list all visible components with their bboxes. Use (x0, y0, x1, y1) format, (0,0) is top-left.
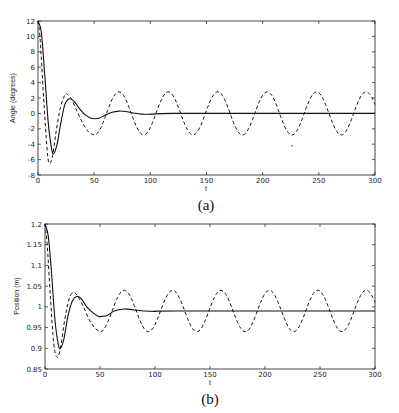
caption-b: (b) (201, 391, 219, 408)
xlabel-b: t (209, 379, 211, 386)
x-tick-label: 300 (368, 177, 381, 185)
y-tick-label: 0.9 (31, 345, 42, 353)
ylabel-b: Position (m) (13, 277, 21, 314)
x-tick-label: 300 (368, 371, 381, 379)
y-tick-label: 8 (31, 48, 35, 56)
y-tick-label: 1.15 (26, 241, 42, 249)
y-tick-label: 4 (31, 79, 36, 87)
x-tick-label: 250 (313, 371, 326, 379)
plot-frame (38, 21, 375, 175)
plot-area-b: 0501001502002503000.850.90.9511.051.11.1… (26, 221, 381, 380)
x-tick-label: 200 (258, 371, 271, 379)
y-tick-label: 1.1 (31, 262, 42, 270)
ylabel-a: Angle (degrees) (9, 73, 17, 123)
x-tick-label: 200 (256, 177, 269, 185)
caption-a: (a) (198, 197, 215, 214)
y-tick-label: -6 (28, 156, 36, 164)
y-tick-label: 10 (26, 33, 35, 41)
y-tick-label: 0.85 (26, 366, 42, 374)
x-tick-label: 250 (312, 177, 325, 185)
x-tick-label: 100 (148, 371, 161, 379)
y-tick-label: -8 (28, 172, 35, 180)
figure: 050100150200250300-8-6-4-2024681012 Angl… (0, 0, 399, 413)
y-tick-label: 2 (31, 95, 35, 103)
chart-a: 050100150200250300-8-6-4-2024681012 Angl… (9, 18, 382, 215)
y-tick-label: 1.05 (26, 283, 42, 291)
x-tick-label: 150 (200, 177, 213, 185)
y-tick-label: 1.2 (31, 221, 42, 229)
y-tick-label: 0.95 (26, 324, 42, 332)
series-solid-line (38, 21, 375, 154)
series-solid-line (45, 224, 375, 349)
x-tick-label: 150 (203, 371, 216, 379)
y-tick-label: -2 (28, 125, 35, 133)
x-tick-label: 50 (96, 371, 105, 379)
y-tick-label: 0 (31, 110, 35, 118)
y-tick-label: 6 (31, 64, 36, 72)
x-tick-label: 100 (144, 177, 157, 185)
y-tick-label: 12 (26, 18, 35, 26)
y-tick-label: 1 (38, 303, 42, 311)
series-dashed-line (45, 224, 375, 357)
x-tick-label: 0 (43, 371, 47, 379)
x-tick-label: 0 (36, 177, 40, 185)
chart-b: 0501001502002503000.850.90.9511.051.11.1… (13, 221, 382, 409)
y-tick-label: -4 (28, 141, 36, 149)
stray-dot-marker (291, 145, 293, 147)
xlabel-a: t (205, 185, 207, 192)
x-tick-label: 50 (90, 177, 99, 185)
series-dashed-line (38, 21, 375, 164)
plot-area-a: 050100150200250300-8-6-4-2024681012 (26, 18, 382, 186)
plot-frame (45, 224, 375, 369)
